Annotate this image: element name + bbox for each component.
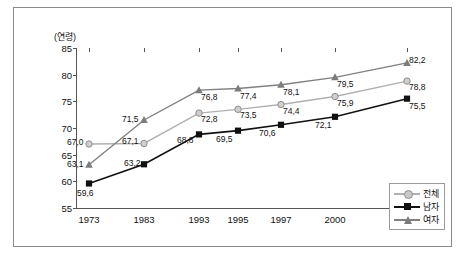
data-point [140,116,148,123]
data-point [278,122,284,128]
data-point-label: 70,6 [259,128,276,138]
y-axis-tick-mark [73,208,77,209]
chart-legend: 전체 남자 여자 [389,183,445,230]
data-point-label: 79,5 [337,79,354,89]
legend-item-total: 전체 [394,187,439,200]
legend-label-male: 남자 [423,200,439,213]
x-axis-tick-label: 1983 [133,208,154,225]
x-axis-tick-label: 1997 [270,208,291,225]
data-point-label: 67,1 [122,136,139,146]
data-point-label: 78,8 [409,82,426,92]
data-point [235,128,241,134]
data-point-label: 75,5 [409,101,426,111]
data-point-label: 59,6 [77,188,94,198]
legend-label-total: 전체 [423,187,439,200]
data-point-label: 67,0 [67,137,84,147]
plot-area: 5560657075808519731983199319951997200020… [76,48,431,209]
data-point-label: 71,5 [122,114,139,124]
y-axis-title: (연령) [54,30,76,43]
data-point-label: 77,4 [240,91,257,101]
chart-frame: (연령) 55606570758085197319831993199519972… [13,7,452,247]
x-axis-tick-label: 1973 [78,208,99,225]
data-point-label: 63,2 [124,158,141,168]
data-point-label: 72,8 [201,114,218,124]
data-point-label: 75,9 [337,98,354,108]
circle-marker-icon [394,188,420,200]
data-point [86,180,92,186]
square-marker-icon [394,201,420,213]
data-point-label: 74,4 [283,106,300,116]
data-point-label: 69,5 [216,134,233,144]
data-point-label: 63,1 [67,159,84,169]
legend-label-female: 여자 [423,213,439,226]
data-point-label: 68,8 [177,135,194,145]
data-point-label: 82,2 [409,55,426,65]
data-point-label: 78,1 [283,87,300,97]
x-axis-tick-label: 2000 [324,208,345,225]
chart-root: (연령) 55606570758085197319831993199519972… [0,0,465,262]
data-point [141,161,147,167]
legend-item-male: 남자 [394,200,439,213]
legend-item-female: 여자 [394,213,439,226]
data-point-label: 73,5 [240,110,257,120]
data-point [86,141,92,147]
data-point-label: 76,8 [201,92,218,102]
x-axis-tick-label: 1993 [188,208,209,225]
triangle-marker-icon [394,214,420,226]
data-point [196,131,202,137]
data-point [332,114,338,120]
chart-series-layer [77,48,431,208]
data-point-label: 72,1 [315,120,332,130]
x-axis-tick-label: 1995 [227,208,248,225]
data-point [141,140,147,146]
